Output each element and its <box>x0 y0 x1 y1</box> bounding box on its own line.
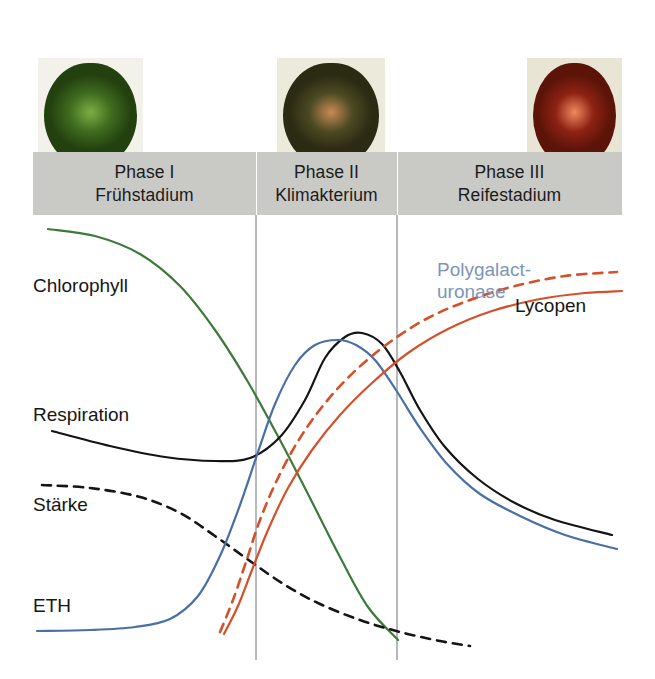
curve-polygalacturonase <box>220 272 617 632</box>
curve-label-staerke: Stärke <box>33 494 88 516</box>
phase-divider-lines <box>256 215 397 660</box>
figure-canvas: Phase I Frühstadium Phase II Klimakteriu… <box>0 0 655 679</box>
curve-label-respiration: Respiration <box>33 404 129 426</box>
curve-respiration <box>52 333 612 535</box>
polygalacturonase-line-2: uronase <box>437 281 531 303</box>
polygalacturonase-line-1: Polygalact- <box>437 259 531 281</box>
curve-label-polygalacturonase: Polygalact- uronase <box>437 259 531 303</box>
curve-lycopen <box>224 291 622 634</box>
curve-eth <box>37 340 617 631</box>
curve-label-eth: ETH <box>33 595 71 617</box>
curve-plot <box>0 0 655 679</box>
curve-label-chlorophyll: Chlorophyll <box>33 275 128 297</box>
